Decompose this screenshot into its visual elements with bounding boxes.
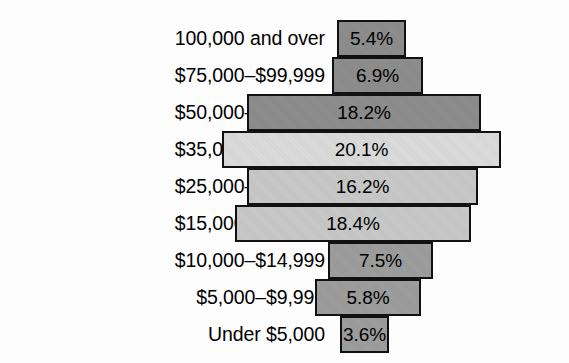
chart-row: $5,000–$9,9995.8%	[0, 279, 569, 316]
bar-value-label: 5.8%	[347, 287, 390, 309]
category-label: Under $5,000	[0, 316, 331, 353]
funnel-bar-chart: 100,000 and over5.4%$75,000–$99,9996.9%$…	[0, 0, 569, 363]
bar-value-label: 3.6%	[343, 324, 386, 346]
bar: 18.2%	[247, 94, 481, 131]
category-label: 100,000 and over	[0, 20, 331, 57]
bar-value-label: 16.2%	[336, 176, 389, 198]
bar: 5.4%	[337, 20, 406, 57]
category-label: $10,000–$14,999	[0, 242, 331, 279]
chart-row: $75,000–$99,9996.9%	[0, 57, 569, 94]
chart-row: 100,000 and over5.4%	[0, 20, 569, 57]
bar: 7.5%	[328, 242, 433, 279]
bar-value-label: 18.2%	[337, 102, 390, 124]
category-label: $5,000–$9,999	[0, 279, 331, 316]
bar: 3.6%	[340, 316, 389, 353]
bar-value-label: 6.9%	[356, 65, 399, 87]
chart-row: $50,000–$74,99918.2%	[0, 94, 569, 131]
bar: 18.4%	[235, 205, 471, 242]
bar-value-label: 20.1%	[335, 139, 388, 161]
bar-value-label: 7.5%	[359, 250, 402, 272]
chart-row: Under $5,0003.6%	[0, 316, 569, 353]
bar-value-label: 5.4%	[350, 28, 393, 50]
chart-row: $10,000–$14,9997.5%	[0, 242, 569, 279]
chart-row: $25,000–$34,99916.2%	[0, 168, 569, 205]
bar: 16.2%	[247, 168, 478, 205]
bar-value-label: 18.4%	[326, 213, 379, 235]
category-label: $75,000–$99,999	[0, 57, 331, 94]
chart-row: $15,000–$24,99918.4%	[0, 205, 569, 242]
bar: 6.9%	[332, 57, 423, 94]
bar: 20.1%	[222, 131, 501, 168]
chart-row: $35,000–$49,99920.1%	[0, 131, 569, 168]
bar: 5.8%	[315, 279, 421, 316]
